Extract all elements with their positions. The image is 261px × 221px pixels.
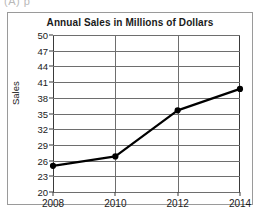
data-point-marker: 2014: 39.7 <box>237 86 243 92</box>
data-point-marker: 2012: 35.6 <box>175 107 181 113</box>
y-tick-label: 38 <box>37 92 48 103</box>
sales-line-series: 2008: 252010: 26.82012: 35.62014: 39.7 <box>53 35 240 192</box>
data-point-marker: 2008: 25 <box>50 163 56 169</box>
x-tick-label: 2008 <box>42 198 64 209</box>
y-tick-label: 29 <box>37 139 48 150</box>
y-tick-label: 23 <box>37 171 48 182</box>
y-tick-label: 47 <box>37 45 48 56</box>
series-line <box>53 89 240 166</box>
x-tick-label: 2014 <box>229 198 251 209</box>
y-tick-label: 41 <box>37 77 48 88</box>
plot-area: 2023262932353841444750 2008201020122014 … <box>53 35 240 192</box>
x-tick-mark <box>240 192 241 196</box>
y-tick-label: 50 <box>37 30 48 41</box>
chart-figure-frame: Annual Sales in Millions of Dollars Sale… <box>7 12 253 205</box>
x-tick-mark <box>53 192 54 196</box>
y-tick-label: 20 <box>37 187 48 198</box>
question-stem-text: (A) p <box>4 0 30 7</box>
x-tick-mark <box>115 192 116 196</box>
x-tick-label: 2012 <box>167 198 189 209</box>
y-tick-label: 32 <box>37 124 48 135</box>
data-point-marker: 2010: 26.8 <box>112 153 118 159</box>
y-tick-label: 44 <box>37 61 48 72</box>
x-tick-label: 2010 <box>104 198 126 209</box>
chart-title: Annual Sales in Millions of Dollars <box>8 17 252 28</box>
x-tick-mark <box>177 192 178 196</box>
y-tick-label: 26 <box>37 155 48 166</box>
y-axis-title: Sales <box>10 81 21 105</box>
gridline-horizontal <box>53 192 240 193</box>
y-tick-label: 35 <box>37 108 48 119</box>
